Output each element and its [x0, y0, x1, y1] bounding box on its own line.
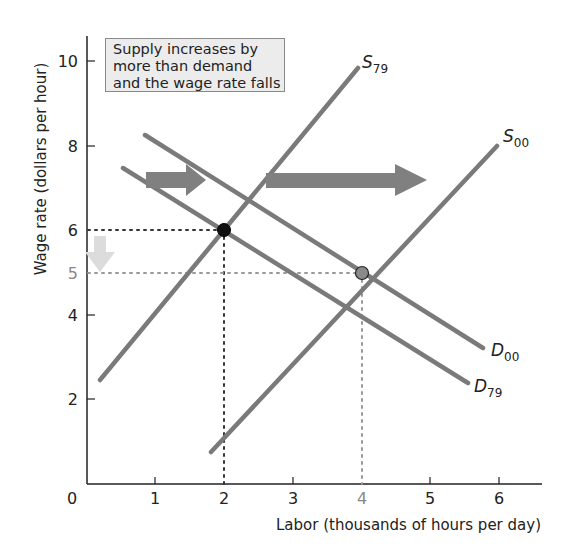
- x-tick-6: 6: [494, 489, 504, 508]
- x-axis-label: Labor (thousands of hours per day): [276, 516, 541, 534]
- label-d00: D00: [491, 340, 519, 364]
- label-s79: S79: [362, 52, 388, 76]
- curve-labels: S79 S00 D79 D00: [362, 52, 529, 400]
- y-tick-10: 10: [58, 52, 78, 71]
- labor-market-chart: 10 8 6 5 4 2 0 1 2 3 4 5 6 Labor (thousa…: [0, 0, 564, 555]
- y-tick-5: 5: [68, 264, 78, 283]
- equilibrium-1979-point: [218, 224, 231, 237]
- annotation-line-2: more than demand: [113, 58, 277, 75]
- y-tick-2: 2: [68, 390, 78, 409]
- curves: [100, 68, 497, 452]
- curve-d00: [145, 135, 483, 348]
- x-tick-labels: 0 1 2 3 4 5 6: [67, 489, 504, 508]
- y-tick-8: 8: [68, 137, 78, 156]
- x-tick-2: 2: [219, 489, 229, 508]
- equilibrium-2000-point: [356, 267, 369, 280]
- x-tick-5: 5: [425, 489, 435, 508]
- x-tick-1: 1: [150, 489, 160, 508]
- curve-d79: [123, 168, 468, 383]
- annotation-line-3: and the wage rate falls: [113, 75, 277, 92]
- x-tick-4: 4: [357, 489, 367, 508]
- annotation-line-1: Supply increases by: [113, 41, 277, 58]
- label-s00: S00: [503, 126, 529, 150]
- annotation-box: Supply increases by more than demand and…: [105, 38, 285, 92]
- x-tick-3: 3: [288, 489, 298, 508]
- guide-lines: [88, 230, 362, 484]
- axes: [87, 36, 542, 484]
- label-d79: D79: [474, 376, 502, 400]
- y-tick-labels: 10 8 6 5 4 2: [58, 52, 78, 409]
- y-axis-label: Wage rate (dollars per hour): [32, 63, 50, 276]
- wage-fall-arrow-icon: [85, 236, 115, 272]
- y-tick-6: 6: [68, 221, 78, 240]
- x-ticks: [155, 477, 499, 484]
- y-tick-4: 4: [68, 306, 78, 325]
- supply-shift-arrow-icon: [266, 164, 427, 196]
- x-tick-0: 0: [67, 489, 77, 508]
